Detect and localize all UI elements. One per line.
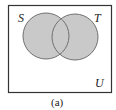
caption: (a)	[51, 96, 64, 109]
venn-diagram: S T U (a)	[0, 0, 116, 110]
universe-label: U	[95, 76, 105, 90]
set-s-label: S	[18, 11, 24, 25]
